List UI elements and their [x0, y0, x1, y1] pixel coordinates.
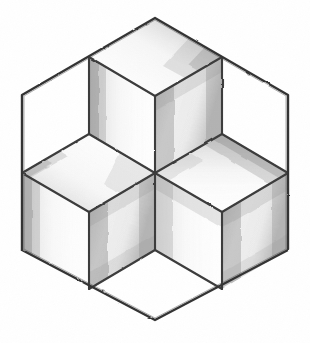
- drawing-canvas: Tumbling Blocks Hexagon graphite pencil …: [0, 0, 310, 343]
- paper-grain-overlay: [0, 0, 310, 343]
- isometric-cube-illusion-figure: [0, 0, 310, 343]
